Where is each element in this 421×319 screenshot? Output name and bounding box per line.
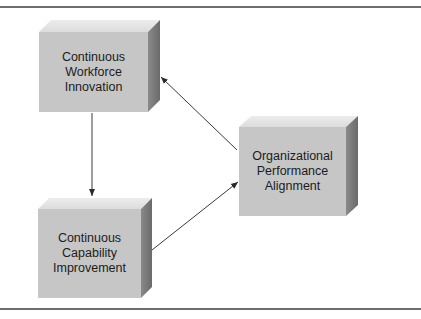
box-top-face <box>38 198 152 209</box>
label-line: Continuous <box>62 50 125 65</box>
box-top-face <box>239 116 358 127</box>
label-line: Innovation <box>65 80 123 95</box>
label-line: Workforce <box>65 65 122 80</box>
label-capability-improvement: Continuous Capability Improvement <box>38 209 141 298</box>
label-line: Alignment <box>265 179 321 194</box>
label-performance-alignment: Organizational Performance Alignment <box>239 127 346 216</box>
box-side-face <box>148 20 160 112</box>
arrow-alignment-to-innovation <box>161 77 237 150</box>
label-line: Organizational <box>252 149 333 164</box>
label-line: Improvement <box>53 261 126 276</box>
label-line: Capability <box>62 246 117 261</box>
box-top-face <box>39 20 160 32</box>
label-workforce-innovation: Continuous Workforce Innovation <box>39 32 148 112</box>
label-line: Continuous <box>58 231 121 246</box>
box-side-face <box>141 198 152 298</box>
arrow-improvement-to-alignment <box>152 182 238 250</box>
box-side-face <box>346 116 358 216</box>
label-line: Performance <box>257 164 329 179</box>
